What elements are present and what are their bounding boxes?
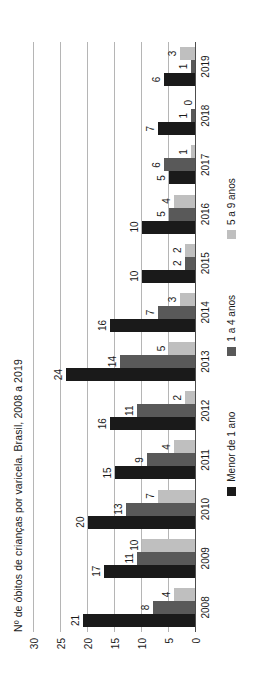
bar-value-label: 5: [157, 175, 167, 181]
bar-slot: 15: [34, 466, 196, 479]
x-axis-tick-label: 2008: [200, 583, 211, 632]
bar[interactable]: 7: [158, 122, 196, 135]
bar-value-label: 16: [98, 418, 108, 429]
bar-group: 1673: [34, 288, 196, 337]
bar-value-label: 4: [162, 198, 172, 204]
bar[interactable]: 17: [104, 565, 196, 578]
bar-group: 1054: [34, 189, 196, 238]
bar[interactable]: 10: [142, 539, 196, 552]
bar-value-label: 10: [130, 540, 140, 551]
bar-groups: 2184171110201371594161122414516731022105…: [34, 42, 196, 632]
bar-value-label: 2: [173, 260, 183, 266]
bar-group: 1594: [34, 435, 196, 484]
x-axis-tick-label: 2013: [200, 337, 211, 386]
bar-group: 561: [34, 140, 196, 189]
bar-slot: 11: [34, 552, 196, 565]
y-axis-tick-label: 5: [163, 638, 174, 644]
bar[interactable]: 24: [66, 368, 196, 381]
bar-slot: 17: [34, 565, 196, 578]
bar[interactable]: 6: [164, 158, 196, 171]
x-axis-tick-labels: 2008200920102011201220132014201520162017…: [200, 42, 211, 632]
bar[interactable]: 9: [147, 453, 196, 466]
legend-label: 5 a 9 anos: [226, 178, 237, 225]
bar[interactable]: 5: [169, 208, 196, 221]
bar-slot: 7: [34, 122, 196, 135]
bar-group: 24145: [34, 337, 196, 386]
rotated-figure-wrapper: Nº de óbitos de crianças por varicela. B…: [0, 0, 268, 688]
bar-value-label: 1: [179, 64, 189, 70]
bar-value-label: 2: [173, 247, 183, 253]
y-axis-tick-label: 0: [190, 638, 201, 644]
bar-slot: 16: [34, 417, 196, 430]
bar[interactable]: 15: [115, 466, 196, 479]
bar[interactable]: 4: [174, 195, 196, 208]
x-axis-tick-label: 2019: [200, 42, 211, 91]
bar[interactable]: 10: [142, 270, 196, 283]
bar-group: 20137: [34, 484, 196, 533]
bar-value-label: 6: [152, 77, 162, 83]
bar[interactable]: 10: [142, 221, 196, 234]
bar-group: 16112: [34, 386, 196, 435]
bar-slot: 5: [34, 342, 196, 355]
bar-value-label: 7: [146, 493, 156, 499]
bar-group: 2184: [34, 583, 196, 632]
bar-slot: 1: [34, 109, 196, 122]
x-axis-tick-label: 2012: [200, 386, 211, 435]
bar-value-label: 10: [130, 221, 140, 232]
bar[interactable]: 8: [153, 601, 196, 614]
bar-slot: 7: [34, 306, 196, 319]
x-axis-tick-label: 2014: [200, 288, 211, 337]
bar-slot: 3: [34, 293, 196, 306]
bar[interactable]: 16: [110, 417, 196, 430]
x-axis-tick-label: 2009: [200, 534, 211, 583]
legend-item[interactable]: 1 a 4 anos: [226, 295, 237, 356]
legend-item[interactable]: Menor de 1 ano: [226, 412, 237, 496]
bar-slot: 5: [34, 171, 196, 184]
bar[interactable]: 6: [164, 73, 196, 86]
bar-slot: 10: [34, 270, 196, 283]
bar-slot: 2: [34, 391, 196, 404]
y-axis-tick-label: 15: [109, 638, 120, 649]
x-axis-tick-label: 2017: [200, 140, 211, 189]
bar-value-label: 0: [184, 100, 194, 106]
bar-group: 1022: [34, 239, 196, 288]
bar-slot: 6: [34, 73, 196, 86]
legend-item[interactable]: 5 a 9 anos: [226, 178, 237, 239]
bar-value-label: 17: [92, 566, 102, 577]
bar-slot: 11: [34, 404, 196, 417]
bar-slot: 6: [34, 158, 196, 171]
bar-group: 613: [34, 42, 196, 91]
bar[interactable]: 13: [126, 503, 196, 516]
bar-value-label: 5: [157, 211, 167, 217]
bar[interactable]: 16: [110, 319, 196, 332]
bar[interactable]: 11: [137, 404, 196, 417]
bar-slot: 2: [34, 244, 196, 257]
bar[interactable]: 14: [120, 355, 196, 368]
bar-value-label: 10: [130, 271, 140, 282]
bar[interactable]: 3: [180, 293, 196, 306]
bar-value-label: 3: [168, 51, 178, 57]
bar-value-label: 4: [162, 444, 172, 450]
bar[interactable]: 7: [158, 306, 196, 319]
chart-title: Nº de óbitos de crianças por varicela. B…: [12, 359, 24, 632]
bar-slot: 24: [34, 368, 196, 381]
bar[interactable]: 11: [137, 552, 196, 565]
bar[interactable]: 5: [169, 171, 196, 184]
bar-slot: 9: [34, 453, 196, 466]
bar[interactable]: 21: [83, 614, 196, 627]
bar-value-label: 5: [157, 346, 167, 352]
x-axis-tick-label: 2010: [200, 484, 211, 533]
bar-value-label: 8: [141, 605, 151, 611]
bar-slot: 1: [34, 145, 196, 158]
bar[interactable]: 20: [88, 516, 196, 529]
legend-swatch-icon: [227, 230, 236, 239]
bar[interactable]: 4: [174, 588, 196, 601]
bar[interactable]: 3: [180, 47, 196, 60]
bar[interactable]: 5: [169, 342, 196, 355]
bar[interactable]: 4: [174, 440, 196, 453]
bar-value-label: 24: [54, 369, 64, 380]
bar-value-label: 15: [103, 467, 113, 478]
x-axis-tick-label: 2016: [200, 189, 211, 238]
bar-slot: 10: [34, 221, 196, 234]
bar[interactable]: 7: [158, 490, 196, 503]
